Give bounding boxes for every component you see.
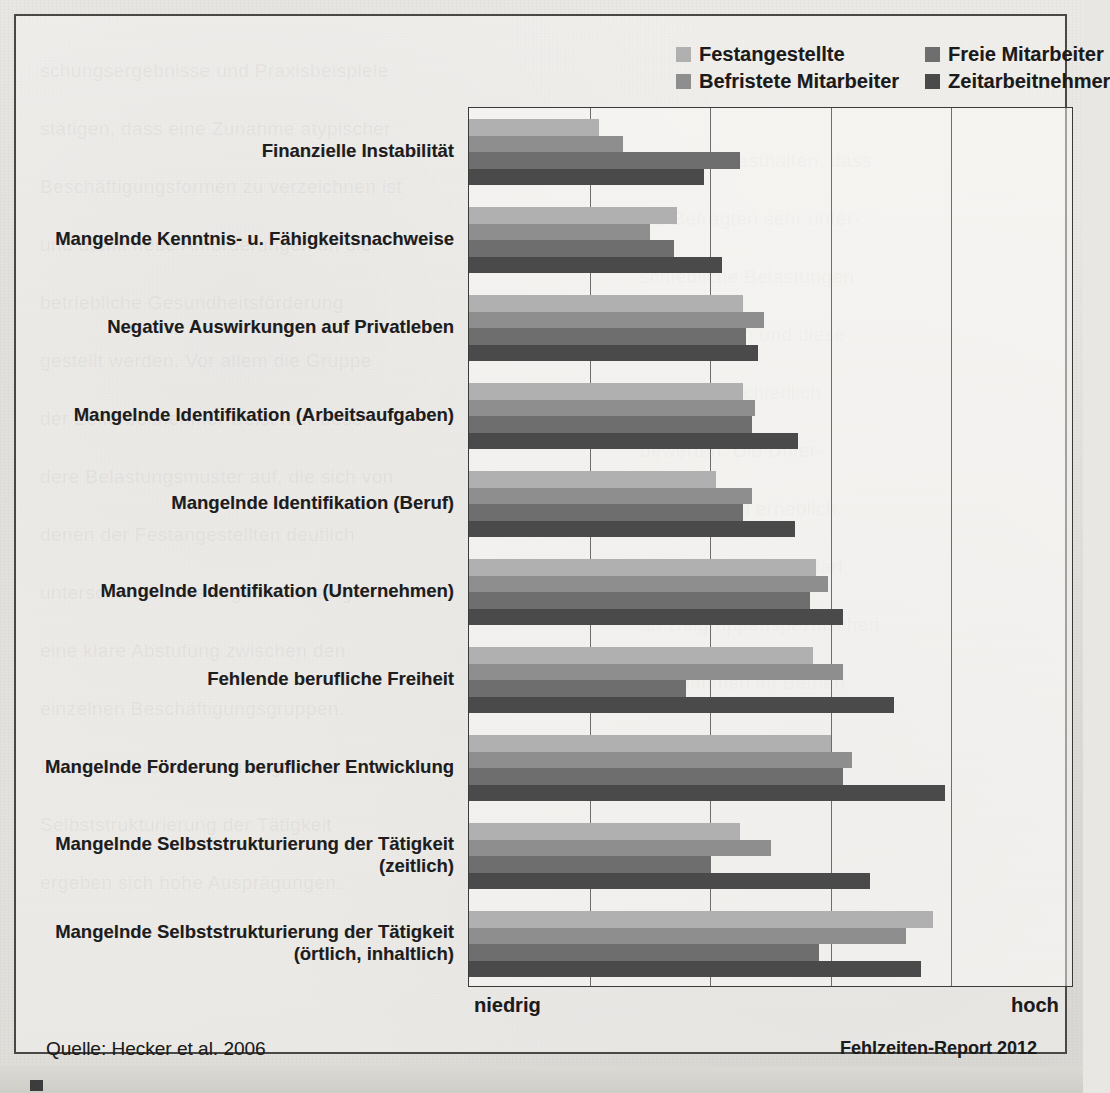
bar	[469, 224, 650, 241]
bar-groups	[469, 108, 1072, 986]
bar	[469, 345, 758, 362]
category-label-line: Negative Auswirkungen auf Privatleben	[107, 316, 454, 339]
category-axis-labels: Finanzielle InstabilitätMangelnde Kenntn…	[36, 107, 454, 987]
legend-item-label: Befristete Mitarbeiter	[699, 70, 899, 93]
bar	[469, 823, 740, 840]
bar-group	[469, 900, 1072, 988]
category-label-line: Finanzielle Instabilität	[262, 140, 454, 163]
bar	[469, 119, 599, 136]
bar	[469, 488, 752, 505]
category-label-line: Fehlende berufliche Freiheit	[207, 668, 454, 691]
category-label-line: Mangelnde Förderung beruflicher Entwickl…	[45, 756, 454, 779]
category-label: Mangelnde Kenntnis- u. Fähigkeitsnachwei…	[55, 228, 454, 251]
bar-group	[469, 460, 1072, 548]
plot-area	[468, 107, 1073, 987]
bar	[469, 647, 813, 664]
bar	[469, 433, 798, 450]
bar	[469, 207, 677, 224]
bar	[469, 785, 945, 802]
axis-label-low: niedrig	[474, 994, 541, 1017]
category-label: Finanzielle Instabilität	[262, 140, 454, 163]
bar	[469, 592, 810, 609]
bar-group	[469, 548, 1072, 636]
category-label: Fehlende berufliche Freiheit	[207, 668, 454, 691]
legend-swatch-icon	[676, 47, 691, 62]
axis-label-high: hoch	[1011, 994, 1059, 1017]
bar	[469, 735, 831, 752]
bar	[469, 928, 906, 945]
bar	[469, 873, 870, 890]
bar	[469, 559, 816, 576]
bar	[469, 136, 623, 153]
bar	[469, 911, 933, 928]
category-label-line: (örtlich, inhaltlich)	[55, 943, 454, 966]
category-label: Negative Auswirkungen auf Privatleben	[107, 316, 454, 339]
bar	[469, 609, 843, 626]
legend-swatch-icon	[925, 74, 940, 89]
bar	[469, 521, 795, 538]
bar	[469, 295, 743, 312]
legend-item: Befristete Mitarbeiter	[676, 70, 899, 93]
bar	[469, 664, 843, 681]
bar	[469, 768, 843, 785]
category-label-line: Mangelnde Identifikation (Beruf)	[171, 492, 454, 515]
legend-item-label: Freie Mitarbeiter	[948, 43, 1104, 66]
category-label-line: Mangelnde Identifikation (Unternehmen)	[100, 580, 454, 603]
bar	[469, 752, 852, 769]
legend-item: Zeitarbeitnehmer	[925, 70, 1110, 93]
category-label-line: Mangelnde Identifikation (Arbeitsaufgabe…	[74, 404, 454, 427]
report-note: Fehlzeiten-Report 2012	[840, 1038, 1037, 1059]
figure-bullet-marker	[30, 1080, 43, 1091]
bar-group	[469, 196, 1072, 284]
bar	[469, 169, 704, 186]
bar	[469, 240, 674, 257]
category-label: Mangelnde Förderung beruflicher Entwickl…	[45, 756, 454, 779]
chart-legend: FestangestellteFreie MitarbeiterBefriste…	[676, 43, 1110, 93]
bar	[469, 416, 752, 433]
bar	[469, 840, 771, 857]
legend-item-label: Festangestellte	[699, 43, 845, 66]
category-label-line: Mangelnde Selbststrukturierung der Tätig…	[55, 833, 454, 856]
category-label-line: Mangelnde Kenntnis- u. Fähigkeitsnachwei…	[55, 228, 454, 251]
bar	[469, 944, 819, 961]
bar-group	[469, 108, 1072, 196]
bar-group	[469, 812, 1072, 900]
bar	[469, 504, 743, 521]
category-label: Mangelnde Identifikation (Beruf)	[171, 492, 454, 515]
bar-group	[469, 372, 1072, 460]
bar	[469, 152, 740, 169]
category-label: Mangelnde Selbststrukturierung der Tätig…	[55, 833, 454, 878]
bar	[469, 961, 921, 978]
bar-group	[469, 636, 1072, 724]
bar	[469, 471, 716, 488]
bar	[469, 383, 743, 400]
bar	[469, 257, 722, 274]
category-label: Mangelnde Identifikation (Unternehmen)	[100, 580, 454, 603]
bar	[469, 856, 710, 873]
bar-group	[469, 724, 1072, 812]
bar	[469, 400, 755, 417]
legend-swatch-icon	[676, 74, 691, 89]
bar	[469, 697, 894, 714]
bar	[469, 576, 828, 593]
legend-item: Festangestellte	[676, 43, 899, 66]
bar-group	[469, 284, 1072, 372]
legend-swatch-icon	[925, 47, 940, 62]
bar	[469, 328, 746, 345]
legend-item: Freie Mitarbeiter	[925, 43, 1110, 66]
category-label: Mangelnde Selbststrukturierung der Tätig…	[55, 921, 454, 966]
legend-item-label: Zeitarbeitnehmer	[948, 70, 1110, 93]
figure-container: FestangestellteFreie MitarbeiterBefriste…	[14, 14, 1067, 1054]
next-figure-strip	[0, 1066, 1083, 1093]
category-label: Mangelnde Identifikation (Arbeitsaufgabe…	[74, 404, 454, 427]
category-label-line: Mangelnde Selbststrukturierung der Tätig…	[55, 921, 454, 944]
bar	[469, 312, 764, 329]
category-label-line: (zeitlich)	[55, 855, 454, 878]
source-note: Quelle: Hecker et al. 2006	[46, 1038, 266, 1060]
bar	[469, 680, 686, 697]
